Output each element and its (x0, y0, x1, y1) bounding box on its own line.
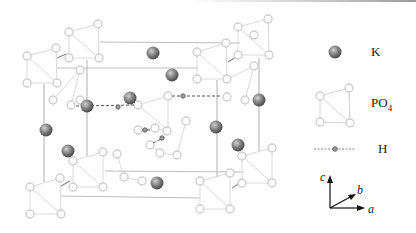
crystal-structure-figure: K PO4 H c b a (0, 0, 416, 233)
axis-a-label: a (368, 202, 374, 217)
axis-b-label: b (357, 183, 363, 198)
hydrogen-bonds (76, 96, 222, 143)
axis-c-label: c (320, 170, 325, 185)
po4-label-subscript: 4 (388, 103, 393, 113)
legend-h-label: H (378, 141, 387, 157)
structure-diagram (0, 0, 416, 233)
legend-po4-icon (316, 84, 354, 127)
legend-hydrogen-icon (314, 147, 355, 152)
legend-potassium-icon (329, 46, 342, 59)
legend-k-label: K (371, 44, 380, 60)
legend-po4-label: PO4 (371, 95, 392, 113)
po4-label-main: PO (371, 95, 388, 110)
